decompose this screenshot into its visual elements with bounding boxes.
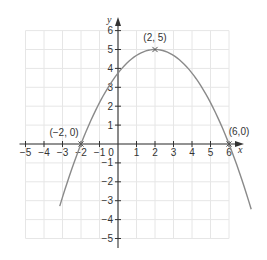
y-tick-label: 1 bbox=[107, 120, 113, 131]
y-axis-arrow-icon bbox=[115, 17, 121, 26]
parabola-chart: −5−4−3−2−10123456 −5−4−3−2−1123456 (−2, … bbox=[0, 0, 267, 260]
y-tick-label: −5 bbox=[102, 233, 114, 244]
y-tick-label: −3 bbox=[102, 195, 114, 206]
x-tick-label: −4 bbox=[38, 147, 50, 158]
y-tick-label: −4 bbox=[102, 214, 114, 225]
y-tick-label: −1 bbox=[102, 157, 114, 168]
y-tick-label: −2 bbox=[102, 176, 114, 187]
x-tick-label: 0 bbox=[108, 147, 114, 158]
x-tick-label: −5 bbox=[20, 147, 32, 158]
y-tick-label: 2 bbox=[107, 101, 113, 112]
y-tick-labels: −5−4−3−2−1123456 bbox=[102, 25, 114, 244]
x-tick-label: 3 bbox=[171, 147, 177, 158]
point-label: (2, 5) bbox=[143, 32, 166, 43]
y-axis-label: y bbox=[106, 14, 112, 25]
x-tick-label: 4 bbox=[189, 147, 195, 158]
y-tick-label: 6 bbox=[107, 25, 113, 36]
x-tick-label: 2 bbox=[152, 147, 158, 158]
y-tick-label: 4 bbox=[107, 63, 113, 74]
x-tick-label: −1 bbox=[94, 147, 106, 158]
x-tick-label: −3 bbox=[57, 147, 69, 158]
x-tick-label: 5 bbox=[208, 147, 214, 158]
x-axis-label: x bbox=[237, 144, 243, 155]
x-tick-label: 1 bbox=[134, 147, 140, 158]
point-label: (6,0) bbox=[229, 126, 250, 137]
point-label: (−2, 0) bbox=[49, 127, 78, 138]
y-tick-label: 5 bbox=[107, 44, 113, 55]
x-tick-labels: −5−4−3−2−10123456 bbox=[20, 147, 232, 158]
